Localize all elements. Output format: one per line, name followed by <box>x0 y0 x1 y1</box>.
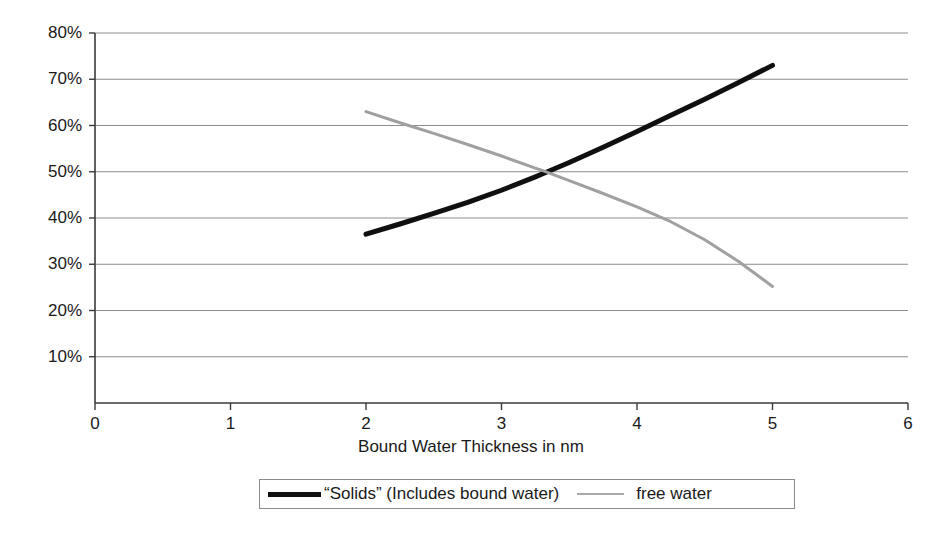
y-tick-label: 50% <box>12 163 82 180</box>
y-tick-label: 70% <box>12 70 82 87</box>
legend-entry-solids: “Solids” (Includes bound water) <box>268 484 559 504</box>
gridlines-group <box>95 33 908 403</box>
x-tick-marks-group <box>95 403 908 410</box>
x-tick-label: 1 <box>211 415 251 432</box>
legend-entry-free-water: free water <box>559 484 712 504</box>
y-tick-label: 60% <box>12 117 82 134</box>
y-tick-label: 30% <box>12 255 82 272</box>
x-tick-label: 0 <box>75 415 115 432</box>
x-tick-label: 6 <box>888 415 928 432</box>
chart-legend: “Solids” (Includes bound water) free wat… <box>259 479 795 509</box>
series-line-solids <box>366 65 773 234</box>
legend-label-free-water: free water <box>636 484 712 504</box>
y-tick-marks-group <box>89 33 95 357</box>
y-tick-label: 20% <box>12 302 82 319</box>
x-tick-label: 4 <box>617 415 657 432</box>
x-tick-label: 2 <box>346 415 386 432</box>
y-tick-label: 80% <box>12 24 82 41</box>
legend-swatch-free-water-icon <box>577 493 624 495</box>
y-tick-label: 40% <box>12 209 82 226</box>
legend-swatch-solids-icon <box>268 492 321 497</box>
x-tick-label: 3 <box>482 415 522 432</box>
data-series-group <box>366 65 773 286</box>
legend-label-solids: “Solids” (Includes bound water) <box>324 484 559 504</box>
x-tick-label: 5 <box>753 415 793 432</box>
y-tick-label: 10% <box>12 348 82 365</box>
x-axis-title: Bound Water Thickness in nm <box>0 437 942 457</box>
series-line-free-water <box>366 112 773 287</box>
chart-container: 10%20%30%40%50%60%70%80% 0123456 Bound W… <box>0 0 942 533</box>
